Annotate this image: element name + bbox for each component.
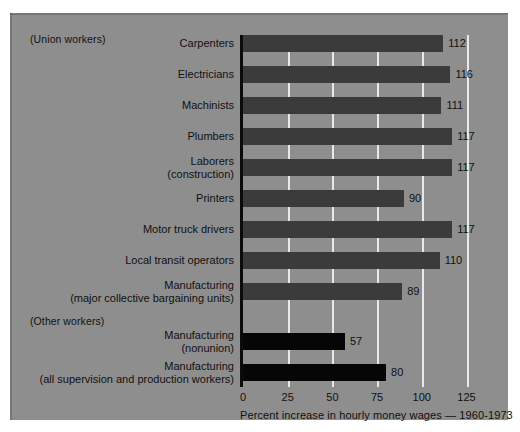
category-label: Motor truck drivers (0, 223, 240, 236)
category-label-line: Printers (0, 192, 234, 205)
x-tick-label: 75 (371, 391, 383, 403)
gridline-75 (377, 35, 379, 387)
bar-value-label: 112 (448, 35, 466, 52)
category-label-line: Manufacturing (0, 279, 234, 292)
category-label-line: Local transit operators (0, 254, 234, 267)
bar-value-label: 110 (445, 252, 463, 269)
bar (243, 97, 441, 114)
category-label: Carpenters (0, 37, 240, 50)
category-label: Manufacturing(all supervision and produc… (0, 360, 240, 385)
category-label: Printers (0, 192, 240, 205)
bar (243, 252, 440, 269)
bar (243, 283, 402, 300)
category-label-line: Manufacturing (0, 329, 234, 342)
category-label: Plumbers (0, 130, 240, 143)
gridline-125 (467, 35, 469, 387)
gridline-100 (422, 35, 424, 387)
category-label: Manufacturing(nonunion) (0, 329, 240, 354)
category-label-line: (all supervision and production workers) (0, 373, 234, 386)
category-label: Local transit operators (0, 254, 240, 267)
bar-value-label: 117 (457, 221, 475, 238)
category-label-line: (construction) (0, 168, 234, 181)
category-label-line: (major collective bargaining units) (0, 292, 234, 305)
x-tick-label: 25 (282, 391, 294, 403)
bar-value-label: 111 (446, 97, 463, 114)
category-label-line: Manufacturing (0, 360, 234, 373)
category-label-line: Carpenters (0, 37, 234, 50)
bar (243, 159, 452, 176)
bar-value-label: 117 (457, 159, 475, 176)
bar (243, 35, 443, 52)
bar-value-label: 80 (391, 364, 403, 381)
category-label: Laborers(construction) (0, 155, 240, 180)
category-label-line: Electricians (0, 68, 234, 81)
x-axis-tick-labels: 0255075100125 (240, 391, 498, 405)
category-label: Machinists (0, 99, 240, 112)
category-label-line: Motor truck drivers (0, 223, 234, 236)
bar (243, 66, 450, 83)
x-tick-label: 100 (413, 391, 431, 403)
bar-value-label: 116 (455, 66, 473, 83)
bar-value-label: 89 (407, 283, 419, 300)
category-label: Manufacturing(major collective bargainin… (0, 279, 240, 304)
bar-value-label: 57 (350, 333, 362, 350)
category-label-line: Machinists (0, 99, 234, 112)
bar (243, 190, 404, 207)
category-label-line: Plumbers (0, 130, 234, 143)
x-tick-label: 125 (457, 391, 475, 403)
x-tick-label: 50 (326, 391, 338, 403)
bar (243, 128, 452, 145)
group-label-other-workers: (Other workers) (30, 315, 104, 327)
x-axis-title: Percent increase in hourly money wages —… (240, 409, 513, 421)
plot-area: 112Carpenters116Electricians111Machinist… (240, 25, 498, 387)
bar (243, 221, 452, 238)
category-label: Electricians (0, 68, 240, 81)
bar-value-label: 117 (457, 128, 475, 145)
category-label-line: Laborers (0, 155, 234, 168)
bar (243, 364, 386, 381)
category-label-line: (nonunion) (0, 342, 234, 355)
bar (243, 333, 345, 350)
chart-panel: (Union workers) (Other workers) 112Carpe… (10, 13, 508, 420)
bar-value-label: 90 (409, 190, 421, 207)
x-tick-label: 0 (240, 391, 246, 403)
